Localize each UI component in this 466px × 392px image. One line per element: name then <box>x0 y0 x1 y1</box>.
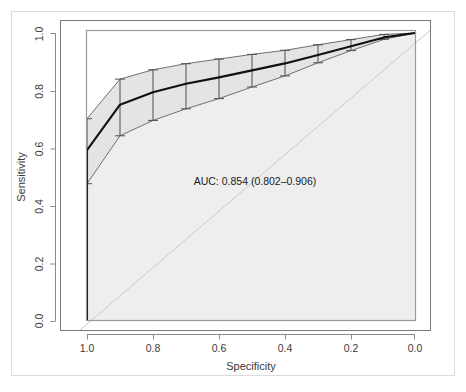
x-axis: 1.0 0.8 0.6 0.4 0.2 0.0 Specificity <box>80 335 423 373</box>
y-axis-title: Sensitivity <box>15 152 27 202</box>
auc-annotation: AUC: 0.854 (0.802–0.906) <box>194 175 317 187</box>
y-tick-label: 1.0 <box>33 27 45 42</box>
x-tick-label: 0.8 <box>146 342 161 354</box>
y-tick-label: 0.8 <box>33 84 45 99</box>
y-tick-label: 0.4 <box>33 199 45 214</box>
y-tick-label: 0.2 <box>33 257 45 272</box>
x-tick-label: 0.0 <box>408 342 423 354</box>
roc-plot-svg: 1.0 0.8 0.6 0.4 0.2 0.0 Specificity 0.0 … <box>0 0 466 392</box>
page-root: 1.0 0.8 0.6 0.4 0.2 0.0 Specificity 0.0 … <box>0 0 466 392</box>
y-tick-label: 0.0 <box>33 314 45 329</box>
x-tick-label: 1.0 <box>80 342 95 354</box>
x-tick-label: 0.6 <box>212 342 227 354</box>
y-axis: 0.0 0.2 0.4 0.6 0.8 1.0 Sensitivity <box>15 27 56 329</box>
roc-figure: 1.0 0.8 0.6 0.4 0.2 0.0 Specificity 0.0 … <box>0 0 466 392</box>
x-axis-title: Specificity <box>226 360 276 372</box>
x-tick-label: 0.4 <box>278 342 293 354</box>
y-tick-label: 0.6 <box>33 142 45 157</box>
x-tick-label: 0.2 <box>344 342 359 354</box>
